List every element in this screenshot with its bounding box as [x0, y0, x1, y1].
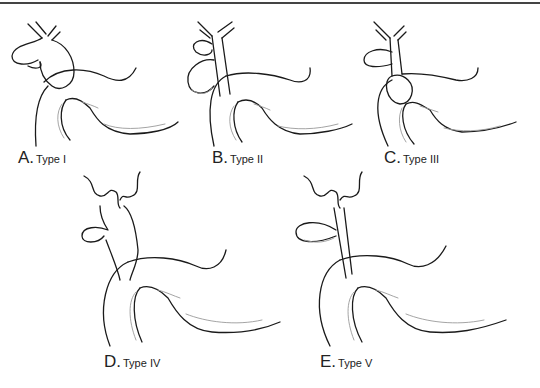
- panel-e-drawing: [296, 172, 506, 346]
- panel-type: Type II: [230, 153, 263, 165]
- panel-c-label: C.Type III: [384, 148, 439, 168]
- panel-type: Type I: [36, 153, 66, 165]
- panel-e-label: E.Type V: [320, 352, 372, 372]
- panel-type: Type V: [338, 357, 372, 369]
- panel-b-label: B.Type II: [212, 148, 263, 168]
- panel-d-drawing: [82, 172, 280, 346]
- panel-letter: D.: [104, 352, 121, 371]
- panel-a-drawing: [12, 22, 178, 146]
- panel-letter: E.: [320, 352, 336, 371]
- panel-letter: B.: [212, 148, 228, 167]
- panel-letter: C.: [384, 148, 401, 167]
- panel-type: Type III: [403, 153, 439, 165]
- panel-c-drawing: [364, 22, 516, 146]
- panel-d-label: D.Type IV: [104, 352, 160, 372]
- panel-letter: A.: [18, 148, 34, 167]
- diagram-canvas: [0, 0, 540, 388]
- panel-type: Type IV: [123, 357, 160, 369]
- panel-b-drawing: [188, 22, 352, 146]
- panel-a-label: A.Type I: [18, 148, 66, 168]
